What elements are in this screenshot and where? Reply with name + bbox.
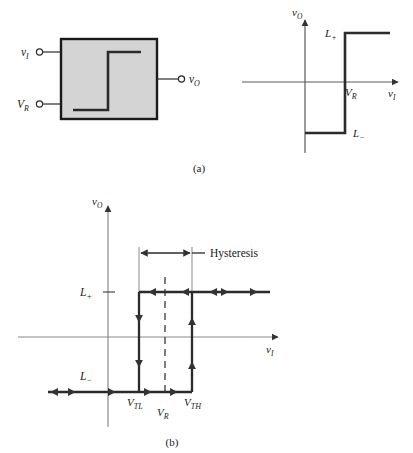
panel-b-threshold-high-label: VTH (184, 396, 202, 411)
panel-b-y-axis-label: vO (92, 195, 103, 210)
caption-a: (a) (193, 162, 206, 175)
panel-b-level-high-label: L+ (79, 286, 92, 301)
panel-b-threshold-ref-label: VR (157, 406, 169, 421)
terminal-vr (36, 101, 42, 107)
figure-svg: vI VR vO vO vI (0, 0, 413, 453)
panel-a-level-low-label: L− (352, 127, 365, 142)
terminal-vo (178, 76, 184, 82)
caption-b: (b) (166, 436, 179, 449)
panel-b-hysteresis-plot: Hysteresis (18, 195, 278, 427)
panel-a-level-high-label: L+ (324, 27, 337, 42)
panel-a-block-diagram: vI VR vO (17, 39, 200, 119)
label-vi: vI (21, 46, 29, 61)
panel-a-x-axis-label: vI (388, 87, 396, 102)
panel-a-transfer-curve (305, 33, 390, 133)
panel-b-hysteresis-label: Hysteresis (210, 247, 258, 260)
panel-b-level-low-label: L− (79, 370, 92, 385)
panel-b-x-axis-label: vI (266, 343, 274, 358)
figure-container: vI VR vO vO vI (0, 0, 413, 453)
terminal-vi (36, 49, 42, 55)
panel-a-threshold-label: VR (345, 86, 357, 101)
panel-a-y-axis-label: vO (292, 6, 303, 21)
label-vr: VR (17, 98, 29, 113)
panel-a-transfer-plot: vO vI L+ L− VR (242, 6, 398, 153)
panel-b-threshold-low-label: VTL (127, 396, 143, 411)
label-vo: vO (189, 73, 200, 88)
